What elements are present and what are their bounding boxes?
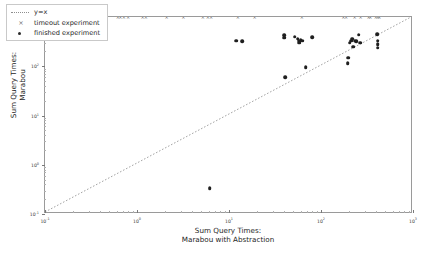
timeout-marker: × [358,17,363,20]
y-tick-label: 102 [31,63,39,70]
timeout-marker: × [126,17,131,20]
y-minor-tick [44,135,46,136]
data-point [346,56,350,60]
y-minor-tick [44,167,46,168]
timeout-marker: × [352,17,357,20]
timeout-marker: × [344,17,349,20]
cross-marker-icon: × [11,19,29,27]
y-tick-mark [42,66,45,67]
y-tick-mark [42,165,45,166]
y-minor-tick [44,180,46,181]
timeout-marker: × [235,17,240,20]
x-minor-tick [100,211,101,213]
y-minor-tick [44,150,46,151]
legend-item-timeout: × timeout experiment [11,19,100,27]
y-minor-tick [44,101,46,102]
data-point [234,39,238,43]
y-minor-tick [44,141,46,142]
y-tick-label: 10-1 [30,211,39,218]
x-minor-tick [128,211,129,213]
legend-item-y-equals-x: y=x [11,8,100,16]
x-minor-tick [220,211,221,213]
y-minor-tick [44,69,46,70]
y-tick-mark [42,214,45,215]
y-minor-tick [44,199,46,200]
data-point [208,187,212,191]
x-tick-mark [229,210,230,213]
x-minor-tick [376,211,377,213]
legend-label-timeout: timeout experiment [34,19,100,27]
y-minor-tick [44,126,46,127]
x-minor-tick [257,211,258,213]
data-point [283,36,287,40]
y-minor-tick [44,120,46,121]
y-minor-tick [44,77,46,78]
y-tick-label: 101 [31,112,39,119]
x-minor-tick [117,211,118,213]
y-minor-tick [44,71,46,72]
x-minor-tick [165,211,166,213]
dotted-line-icon [11,8,29,16]
x-minor-tick [307,211,308,213]
x-tick-label: 102 [317,217,325,224]
x-minor-tick [89,211,90,213]
data-point [301,39,305,43]
x-minor-tick [317,211,318,213]
x-minor-tick [393,211,394,213]
x-minor-tick [201,211,202,213]
x-tick-mark [321,210,322,213]
legend-item-finished: finished experiment [11,29,100,37]
legend-label-y-equals-x: y=x [34,8,47,16]
timeout-marker: × [299,17,304,20]
y-minor-tick [44,51,46,52]
x-minor-tick [349,211,350,213]
data-point [346,61,350,65]
x-minor-tick [73,211,74,213]
data-point [354,40,358,44]
x-minor-tick [409,211,410,213]
y-minor-tick [44,74,46,75]
timeout-marker: × [181,17,186,20]
x-minor-tick [284,211,285,213]
legend-label-finished: finished experiment [34,29,100,37]
x-tick-label: 10-1 [40,217,49,224]
data-point [304,66,308,70]
dot-marker-icon [11,29,29,37]
timeout-marker: × [252,17,257,20]
data-point [352,45,356,49]
y-tick-mark [42,116,45,117]
x-minor-tick [192,211,193,213]
plot-axes: ××××××××××××××××××××××× 10-1100101102103… [44,16,412,213]
x-tick-mark [413,210,414,213]
x-minor-tick [301,211,302,213]
x-tick-label: 101 [225,217,233,224]
timeout-marker: × [377,17,382,20]
timeout-marker: × [164,17,169,20]
x-axis-title-line2: Marabou with Abstraction [44,235,412,244]
x-minor-tick [215,211,216,213]
x-minor-tick [312,211,313,213]
x-minor-tick [365,211,366,213]
data-point [357,33,361,37]
y-minor-tick [44,86,46,87]
data-point [284,75,288,79]
x-minor-tick [273,211,274,213]
x-tick-mark [45,210,46,213]
y-minor-tick [44,118,46,119]
y-minor-tick [44,191,46,192]
y-minor-tick [44,176,46,177]
x-tick-label: 100 [133,217,141,224]
x-axis-title: Sum Query Times: Marabou with Abstractio… [44,226,412,244]
x-tick-label: 103 [409,217,417,224]
x-minor-tick [209,211,210,213]
x-minor-tick [225,211,226,213]
y-minor-tick [44,92,46,93]
data-point [310,35,314,39]
y-minor-tick [44,184,46,185]
x-minor-tick [293,211,294,213]
legend: y=x × timeout experiment finished experi… [6,4,108,41]
y-minor-tick [44,130,46,131]
y-equals-x-reference-line [45,17,411,212]
timeout-marker: × [209,17,214,20]
data-point [359,41,363,45]
